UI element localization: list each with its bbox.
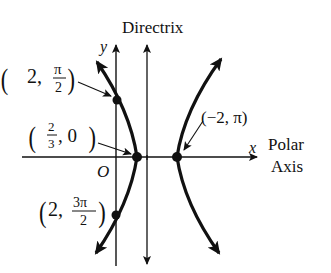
svg-text:(: ( — [29, 120, 36, 154]
svg-text:, 0: , 0 — [58, 125, 77, 146]
hyperbola-polar-diagram: Directrix y O x Polar Axis ( 2, π 2 ) ( … — [0, 0, 331, 273]
label-point-neg2-pi: (−2, π) — [201, 108, 248, 127]
directrix-label: Directrix — [122, 18, 184, 37]
point-2-pi-over-2 — [113, 96, 122, 105]
svg-text:2,: 2, — [48, 198, 63, 220]
y-axis-label: y — [98, 38, 108, 56]
svg-text:2: 2 — [48, 119, 55, 134]
point-neg2-pi — [172, 152, 182, 162]
leader-arrow-p1 — [78, 82, 111, 96]
svg-text:π: π — [54, 61, 62, 77]
leader-arrow-p2 — [98, 143, 131, 154]
svg-text:3π: 3π — [73, 195, 87, 210]
axis-label: Axis — [271, 157, 303, 176]
svg-text:): ) — [68, 62, 75, 96]
svg-text:2: 2 — [80, 213, 87, 228]
label-point-2-pi-over-2: ( 2, π 2 ) — [1, 61, 75, 96]
x-axis-label: x — [248, 139, 256, 156]
svg-text:2,: 2, — [27, 65, 42, 87]
svg-text:2: 2 — [55, 80, 62, 95]
point-2-3pi-over-2 — [112, 211, 121, 220]
point-2-thirds-0 — [132, 152, 142, 162]
svg-text:(: ( — [39, 195, 46, 229]
hyperbola-left-branch-upper — [97, 62, 137, 157]
svg-text:3: 3 — [48, 136, 55, 151]
hyperbola-right-branch-lower — [177, 157, 219, 253]
svg-text:(: ( — [1, 62, 8, 96]
label-point-2-thirds-0: ( 2 3 , 0 ) — [29, 119, 96, 154]
origin-label: O — [97, 162, 109, 181]
svg-text:): ) — [98, 195, 105, 229]
svg-text:): ) — [89, 120, 96, 154]
polar-label: Polar — [268, 135, 304, 154]
label-point-2-3pi-over-2: ( 2, 3π 2 ) — [39, 195, 106, 229]
